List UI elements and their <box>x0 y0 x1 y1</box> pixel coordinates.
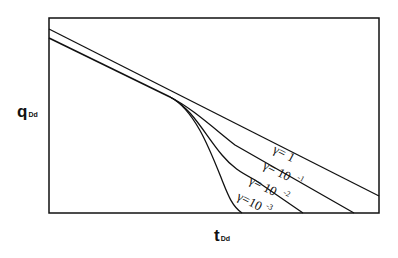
y-axis-label: qDd <box>17 102 38 122</box>
type-curve-chart: γ= 1 γ= 10 -1 γ= 10 -2 γ=10 -3 <box>0 0 398 258</box>
curve-gamma-1e-3 <box>170 97 242 213</box>
x-axis-label: tDd <box>214 226 230 246</box>
svg-text:-3: -3 <box>265 201 275 212</box>
svg-text:-2: -2 <box>282 188 292 199</box>
curve-gamma-1 <box>49 29 379 196</box>
svg-text:-1: -1 <box>296 173 306 184</box>
plot-frame <box>49 18 379 213</box>
curve-common-stem <box>49 38 170 97</box>
curve-gamma-1e-1 <box>170 97 354 213</box>
